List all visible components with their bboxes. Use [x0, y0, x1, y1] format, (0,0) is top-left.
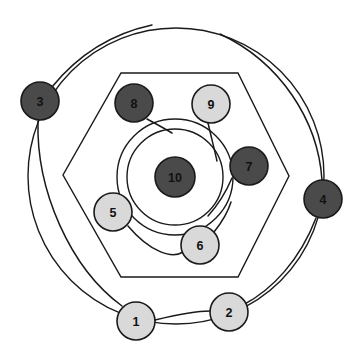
node-circle-9[interactable]: [192, 85, 230, 123]
node-5[interactable]: 5: [94, 193, 132, 231]
node-circle-4[interactable]: [304, 180, 342, 218]
node-7[interactable]: 7: [230, 147, 268, 185]
node-6[interactable]: 6: [181, 226, 219, 264]
node-1[interactable]: 1: [117, 302, 155, 340]
edge-4-to-2: [243, 218, 316, 305]
diagram-canvas: 12345678910: [0, 0, 359, 359]
node-circle-8[interactable]: [115, 84, 153, 122]
edge-3-to-outer-arc-up: [52, 25, 152, 87]
node-circle-3[interactable]: [21, 82, 59, 120]
node-circle-2[interactable]: [210, 293, 248, 331]
network-diagram: 12345678910: [0, 0, 359, 359]
node-10[interactable]: 10: [155, 157, 195, 197]
node-circle-7[interactable]: [230, 147, 268, 185]
edge-5-to-6: [128, 226, 183, 255]
node-9[interactable]: 9: [192, 85, 230, 123]
edge-9-to-middle-ring: [208, 123, 217, 161]
node-4[interactable]: 4: [304, 180, 342, 218]
edge-1-to-2: [155, 311, 210, 320]
node-circle-6[interactable]: [181, 226, 219, 264]
node-layer: 12345678910: [21, 82, 342, 340]
node-2[interactable]: 2: [210, 293, 248, 331]
node-3[interactable]: 3: [21, 82, 59, 120]
node-circle-1[interactable]: [117, 302, 155, 340]
node-8[interactable]: 8: [115, 84, 153, 122]
node-circle-10[interactable]: [155, 157, 195, 197]
node-circle-5[interactable]: [94, 193, 132, 231]
